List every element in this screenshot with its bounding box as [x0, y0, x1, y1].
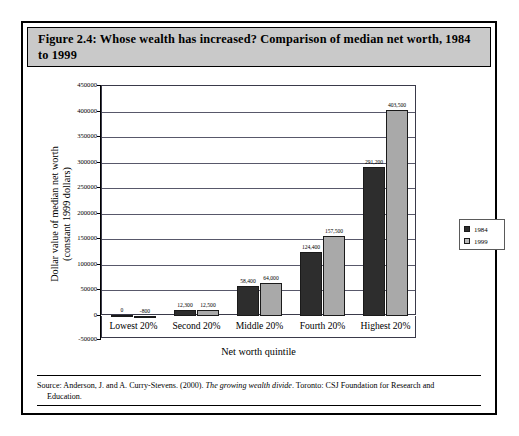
bar-value-label: 403,500	[380, 102, 414, 108]
y-axis-tick-label: -50000	[51, 335, 97, 342]
bar-1999-middle-20-	[260, 283, 282, 316]
bar-1999-fourth-20-	[323, 236, 345, 317]
legend-item-1999: 1999	[464, 235, 504, 247]
bar-value-label: 64,000	[254, 275, 288, 281]
grid-line	[102, 137, 415, 138]
y-axis-tick-mark	[97, 238, 101, 239]
bar-1984-middle-20-	[237, 286, 259, 316]
category-label-fourth-20-: Fourth 20%	[291, 320, 354, 331]
figure-container: Figure 2.4: Whose wealth has increased? …	[21, 21, 497, 415]
y-axis-tick-label: 50000	[51, 285, 97, 292]
y-axis-tick-label: 150000	[51, 234, 97, 241]
source-note: Source: Anderson, J. and A. Curry-Steven…	[37, 380, 483, 403]
y-axis-tick-mark	[97, 85, 101, 86]
source-title-italic: The growing wealth divide	[206, 381, 292, 390]
figure-title-band: Figure 2.4: Whose wealth has increased? …	[27, 27, 491, 67]
y-axis-title-wrap: Dollar value of median net worth (consta…	[27, 71, 57, 364]
category-label-second-20-: Second 20%	[165, 320, 228, 331]
y-axis-tick-label: 250000	[51, 183, 97, 190]
y-axis-tick-mark	[97, 162, 101, 163]
source-divider-top	[37, 375, 481, 376]
y-axis-tick-mark	[97, 111, 101, 112]
category-label-lowest-20-: Lowest 20%	[102, 320, 165, 331]
bar-value-label: 157,500	[317, 228, 351, 234]
page-title: Figure 2.4: Whose wealth has increased? …	[38, 32, 480, 63]
y-axis-tick-mark	[97, 187, 101, 188]
bar-value-label: 12,500	[191, 302, 225, 308]
source-prefix: Source: Anderson, J. and A. Curry-Steven…	[37, 381, 206, 390]
y-axis-tick-label: 0	[51, 311, 97, 318]
source-note-line2: Education.	[37, 391, 483, 402]
y-axis-tick-mark	[97, 264, 101, 265]
source-divider-bottom	[37, 405, 481, 406]
legend-label-1999: 1999	[474, 238, 488, 245]
y-axis-tick-mark	[97, 213, 101, 214]
grid-line	[102, 112, 415, 113]
chart-legend: 19841999	[459, 219, 505, 250]
category-label-middle-20-: Middle 20%	[228, 320, 291, 331]
bar-value-label: -800	[128, 308, 162, 314]
y-axis-tick-mark	[97, 136, 101, 137]
y-axis-tick-mark	[97, 339, 101, 340]
legend-swatch-1984	[464, 226, 470, 232]
legend-item-1984: 1984	[464, 223, 504, 235]
y-axis-tick-label: 400000	[51, 107, 97, 114]
source-suffix: . Toronto: CSJ Foundation for Research a…	[292, 381, 434, 390]
legend-swatch-1999	[464, 238, 470, 244]
y-axis-tick-label: 350000	[51, 132, 97, 139]
category-label-highest-20-: Highest 20%	[354, 320, 417, 331]
bar-1984-fourth-20-	[300, 252, 322, 316]
x-axis-title: Net worth quintile	[101, 346, 416, 357]
bar-1999-highest-20-	[386, 110, 408, 316]
y-axis-tick-mark	[97, 289, 101, 290]
chart-canvas: Dollar value of median net worth (consta…	[27, 71, 491, 364]
y-axis-tick-label: 100000	[51, 260, 97, 267]
y-axis-tick-label: 300000	[51, 158, 97, 165]
bar-1984-highest-20-	[363, 167, 385, 316]
legend-label-1984: 1984	[474, 226, 488, 233]
plot-area: 0-80012,30012,50058,40064,000124,400157,…	[101, 85, 416, 315]
category-label-row: Lowest 20%Second 20%Middle 20%Fourth 20%…	[101, 316, 416, 338]
y-axis-tick-label: 450000	[51, 81, 97, 88]
y-axis-tick-mark	[97, 315, 101, 316]
y-axis-tick-label: 200000	[51, 209, 97, 216]
